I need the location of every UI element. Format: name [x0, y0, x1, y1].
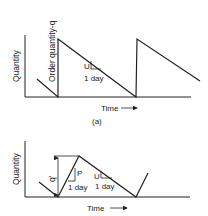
unit-label: 1 day [84, 74, 104, 83]
y-axis-label: Quantity [11, 50, 21, 82]
figure-b: Quantity q' P 1 day U 1 day Time [11, 141, 190, 213]
rise-unit-label: 1 day [68, 183, 88, 192]
sawtooth-line [37, 39, 200, 97]
order-quantity-label: Order quantity-q [47, 20, 57, 82]
figure-a: Quantity Order quantity-q U 1 day Time (… [11, 20, 200, 126]
x-axis-label: Time [101, 104, 119, 113]
slope-triangle [101, 171, 112, 178]
q-prime-label: q' [47, 175, 57, 182]
y-axis-label: Quantity [11, 153, 21, 185]
figure-caption: (a) [92, 117, 102, 126]
slope-u-label: U [94, 172, 100, 181]
slope-u-label: U [84, 62, 90, 71]
x-axis-label: Time [87, 204, 105, 213]
inventory-diagrams: Quantity Order quantity-q U 1 day Time (… [0, 0, 208, 216]
unit-label: 1 day [95, 182, 115, 191]
rise-p-label: P [77, 169, 82, 178]
